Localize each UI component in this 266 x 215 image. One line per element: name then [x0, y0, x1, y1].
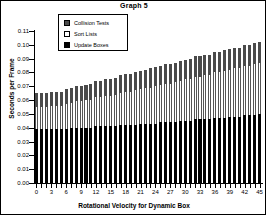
bar-segment-collision-tests [139, 71, 142, 89]
bar-segment-update-boxes [109, 126, 112, 183]
bar-segment-update-boxes [70, 128, 73, 183]
bar-segment-update-boxes [80, 128, 83, 183]
bar-segment-update-boxes [179, 121, 182, 183]
x-axis-line [34, 183, 263, 184]
y-axis-tick [29, 72, 34, 73]
bar-segment-collision-tests [35, 93, 38, 107]
bar-segment-collision-tests [75, 86, 78, 101]
bar-segment-update-boxes [99, 126, 102, 183]
bar [35, 93, 38, 183]
bar-segment-sort-lists [124, 92, 127, 125]
bar-segment-sort-lists [84, 100, 87, 128]
bar-segment-update-boxes [194, 119, 197, 183]
bar-segment-collision-tests [114, 78, 117, 95]
bar-segment-update-boxes [159, 122, 162, 183]
y-axis-tick-label: 0.08 [3, 69, 29, 75]
bar-segment-update-boxes [149, 124, 152, 183]
bar-segment-collision-tests [84, 85, 87, 100]
bar-segment-collision-tests [70, 88, 73, 103]
bar [94, 81, 97, 183]
bar [198, 56, 201, 183]
chart-frame: Graph 5 Seconds per Frame 0.110.100.090.… [0, 0, 266, 215]
y-axis-tick-label: 0.01 [3, 166, 29, 172]
y-axis-tick-label: 0.03 [3, 138, 29, 144]
x-axis-tick [175, 184, 176, 188]
y-axis-tick [29, 86, 34, 87]
x-axis-tick [185, 184, 186, 188]
bar-segment-collision-tests [218, 52, 221, 73]
x-axis-title: Rotational Velocity for Dynamic Box [1, 202, 266, 209]
y-axis-tick [29, 100, 34, 101]
bar-segment-update-boxes [184, 121, 187, 183]
bar-segment-update-boxes [154, 124, 157, 183]
bar-segment-collision-tests [184, 60, 187, 79]
legend-item-update-boxes: Update Boxes [62, 40, 124, 50]
bar-segment-update-boxes [124, 125, 127, 183]
bar [194, 56, 197, 183]
bar-segment-sort-lists [70, 103, 73, 128]
y-axis-tick-label: 0.11 [3, 28, 29, 34]
x-axis-tick [121, 184, 122, 188]
bar-segment-update-boxes [119, 125, 122, 183]
bar [99, 81, 102, 183]
bar-segment-collision-tests [213, 52, 216, 73]
x-axis-tick [255, 184, 256, 188]
bar-segment-update-boxes [55, 129, 58, 183]
bar-segment-sort-lists [223, 71, 226, 118]
bar-segment-sort-lists [248, 66, 251, 116]
bar-segment-sort-lists [129, 92, 132, 125]
bar [60, 92, 63, 183]
bar [70, 88, 73, 183]
x-axis-tick [160, 184, 161, 188]
bar-segment-collision-tests [149, 68, 152, 87]
bar-segment-sort-lists [60, 106, 63, 129]
y-axis-tick [29, 128, 34, 129]
y-axis-tick [29, 31, 34, 32]
bar-segment-collision-tests [208, 55, 211, 76]
bar [208, 55, 211, 183]
y-axis-tick-label: 0.06 [3, 97, 29, 103]
bar [213, 52, 216, 183]
x-axis-tick-label: 36 [208, 189, 222, 195]
y-axis-tick-label: 0.02 [3, 152, 29, 158]
bar-segment-sort-lists [189, 79, 192, 120]
x-axis-tick [195, 184, 196, 188]
x-axis-tick-label: 45 [253, 189, 266, 195]
bar-segment-collision-tests [144, 70, 147, 88]
y-axis-tick-label: 0.04 [3, 124, 29, 130]
bar [65, 89, 68, 183]
bar-segment-update-boxes [228, 117, 231, 183]
x-axis-tick [76, 184, 77, 188]
bar-segment-update-boxes [45, 129, 48, 183]
bar-segment-sort-lists [119, 93, 122, 125]
bar [238, 48, 241, 183]
bar-segment-sort-lists [149, 88, 152, 124]
bar-segment-sort-lists [218, 72, 221, 118]
bar-segment-collision-tests [228, 49, 231, 70]
x-axis-tick [155, 184, 156, 188]
bar-segment-sort-lists [55, 106, 58, 129]
bar-segment-update-boxes [114, 126, 117, 183]
legend-swatch-collision-tests [64, 20, 70, 26]
bar-segment-sort-lists [80, 101, 83, 127]
bar-segment-collision-tests [189, 59, 192, 80]
bar-segment-collision-tests [203, 55, 206, 76]
x-axis-tick-label: 3 [44, 189, 58, 195]
bar-segment-sort-lists [99, 97, 102, 126]
bar-segment-collision-tests [50, 92, 53, 106]
bar [243, 45, 246, 183]
x-axis-tick-label: 24 [148, 189, 162, 195]
x-axis-tick [136, 184, 137, 188]
bar [169, 64, 172, 183]
bar-segment-update-boxes [60, 129, 63, 183]
bar-segment-collision-tests [134, 72, 137, 90]
bar-segment-collision-tests [60, 92, 63, 106]
bar-segment-update-boxes [89, 128, 92, 183]
bar [124, 74, 127, 183]
bar-segment-update-boxes [243, 115, 246, 183]
bar-segment-sort-lists [258, 63, 261, 114]
bar-segment-collision-tests [94, 81, 97, 98]
bar-segment-update-boxes [203, 119, 206, 183]
bar [89, 84, 92, 183]
bar [129, 74, 132, 183]
